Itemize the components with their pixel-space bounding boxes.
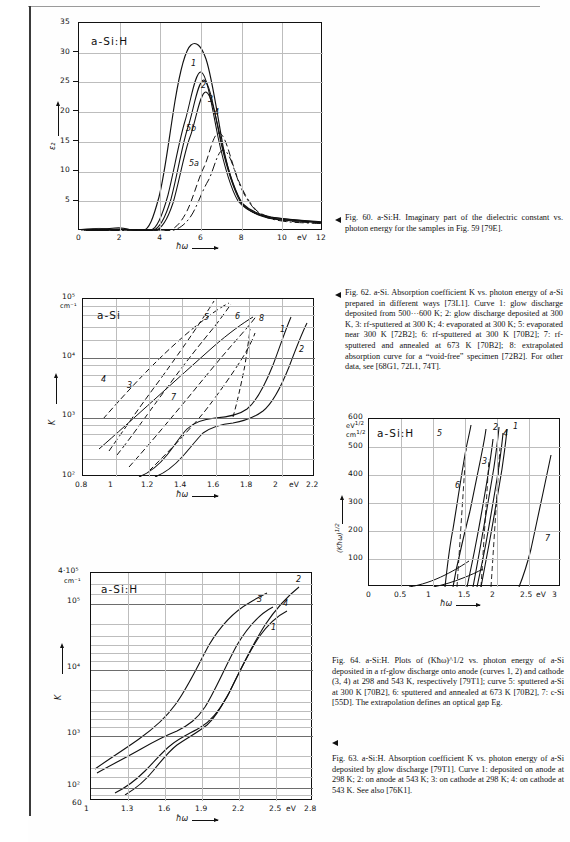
document-page: 1 2 3 4 5b 5a a-Si:H 35 30 25 20 15 10 5… <box>0 0 570 842</box>
figure-64-curve-label-5: 5 <box>437 429 442 438</box>
scan-margin <box>0 0 28 842</box>
figure-60-ytick-30: 30 <box>60 47 70 56</box>
figure-64-xtick-2.0: 2 <box>490 590 495 599</box>
figure-63-caption: Fig. 63. a-Si:H. Absorption coefficient … <box>332 754 564 796</box>
figure-60-x-axis-label: ħω <box>176 242 188 251</box>
figure-60-xtick-2: 2 <box>117 233 122 242</box>
figure-60-y-arrow <box>58 106 59 136</box>
figure-64-xtick-1.0: 1 <box>426 590 431 599</box>
figure-64-curve-label-2: 2 <box>493 423 498 432</box>
page-top-rule <box>28 6 540 7</box>
figure-63-ytick-1e4: 10⁴ <box>67 662 80 671</box>
figure-60-ytick-5: 5 <box>65 195 70 204</box>
figure-60-xtick-4: 4 <box>157 233 162 242</box>
figure-64-curve-label-7: 7 <box>545 534 550 543</box>
figure-64: 5 2 1 4 3 6 7 a-Si:H 600 eV1/2 cm1/2 500… <box>330 408 570 648</box>
figure-62-plot-area: 5 6 8 1 2 4 3 7 a-Si <box>82 298 314 476</box>
figure-62-curve-label-8: 8 <box>259 314 264 323</box>
figure-64-ytick-100: 100 <box>348 553 363 562</box>
figure-60-xtick-0: 0 <box>76 233 81 242</box>
figure-63-x-axis-label: ħω <box>176 814 188 823</box>
figure-60-curve-label-4: 4 <box>214 108 219 117</box>
figure-60-xtick-8: 8 <box>239 233 244 242</box>
figure-62-xtick-1.4: 1.4 <box>174 480 187 489</box>
figure-62-xtick-1.6: 1.6 <box>207 480 220 489</box>
figure-64-ytick-400: 400 <box>348 469 363 478</box>
figure-64-xtick-0: 0 <box>366 590 371 599</box>
figure-62-xtick-0.8: 0.8 <box>75 480 88 489</box>
figure-63-xtick-1.9: 1.9 <box>195 804 208 813</box>
figure-62-x-unit: eV <box>289 480 299 489</box>
figure-62-xtick-2.0: 2 <box>273 480 278 489</box>
figure-62-x-axis-label: ħω <box>176 490 188 499</box>
caption-pointer-icon-63 <box>332 740 338 746</box>
figure-60-ytick-25: 25 <box>60 76 70 85</box>
figure-62: 5 6 8 1 2 4 3 7 a-Si 10⁵ cm⁻¹ 10⁴ 10³ 10… <box>36 290 330 510</box>
figure-63-y-unit: cm⁻¹ <box>64 577 81 585</box>
figure-64-x-arrow <box>456 605 480 606</box>
figure-60-xtick-6: 6 <box>198 233 203 242</box>
caption-pointer-icon-62 <box>335 292 341 298</box>
figure-62-ytick-1e2: 10² <box>62 470 75 479</box>
figure-60-caption: Fig. 60. a-Si:H. Imaginary part of the d… <box>345 213 563 234</box>
figure-64-caption-number: Fig. 64. <box>332 656 361 665</box>
figure-62-caption-material: a-Si. <box>374 288 389 297</box>
figure-63-y-axis-label: K <box>54 695 63 700</box>
figure-63-xtick-1.6: 1.6 <box>158 804 171 813</box>
figure-64-plot-area: 5 2 1 4 3 6 7 a-Si:H <box>368 418 560 586</box>
figure-63-xtick-2.5: 2.5 <box>269 804 282 813</box>
figure-62-sample-label: a-Si <box>97 309 121 321</box>
figure-60-caption-number: Fig. 60. <box>345 213 373 222</box>
figure-63-y-arrow <box>62 648 63 674</box>
figure-63-ytick-1e5: 10⁵ <box>67 596 80 605</box>
figure-62-xtick-1.0: 1 <box>108 480 113 489</box>
figure-63-x-unit: eV <box>286 804 296 813</box>
figure-60-y-axis-label: ε₂ <box>48 142 57 150</box>
figure-62-curve-label-6: 6 <box>235 312 240 321</box>
figure-60-x-arrow <box>192 248 218 249</box>
figure-64-caption-material: a-Si:H. <box>366 656 390 665</box>
figure-63-curve-label-4: 4 <box>283 599 288 608</box>
figure-64-x-unit: eV <box>536 590 546 599</box>
figure-60-curve-label-5a: 5a <box>189 159 199 168</box>
figure-63: 2 3 4 1 a-Si:H 4·10⁵ cm⁻¹ 10⁵ 10⁴ 10³ 10… <box>36 560 330 830</box>
figure-62-caption-text: Absorption coefficient K vs. photon ener… <box>345 288 563 371</box>
figure-60-curve-label-3: 3 <box>208 95 213 104</box>
caption-pointer-icon <box>335 217 341 223</box>
figure-63-plot-area: 2 3 4 1 a-Si:H <box>90 572 312 800</box>
figure-60-xtick-12: 12 <box>316 233 326 242</box>
figure-62-ytick-1e3: 10³ <box>62 410 75 419</box>
figure-60-ytick-35: 35 <box>60 17 70 26</box>
figure-63-caption-material: a-Si:H. <box>362 754 386 763</box>
figure-63-ytick-max: 4·10⁵ <box>58 566 79 575</box>
figure-62-curve-label-3: 3 <box>127 381 132 390</box>
figure-63-ytick-min: 60 <box>72 798 82 807</box>
figure-60: 1 2 3 4 5b 5a a-Si:H 35 30 25 20 15 10 5… <box>36 10 330 250</box>
figure-62-caption-number: Fig. 62. <box>345 288 371 297</box>
figure-62-xtick-2.2: 2.2 <box>306 480 319 489</box>
figure-62-ytick-1e4: 10⁴ <box>62 351 75 360</box>
figure-64-ytick-500: 500 <box>348 441 363 450</box>
figure-62-xtick-1.8: 1.8 <box>240 480 253 489</box>
figure-60-ytick-15: 15 <box>60 136 70 145</box>
page-left-rule <box>29 6 31 816</box>
figure-64-ytick-300: 300 <box>348 497 363 506</box>
figure-62-curve-label-4: 4 <box>101 375 106 384</box>
figure-62-curve-label-2: 2 <box>299 345 304 354</box>
figure-64-curve-label-1: 1 <box>513 422 518 431</box>
figure-64-xtick-0.5: 0.5 <box>394 590 407 599</box>
figure-64-y-unit-cm: cm1/2 <box>346 429 366 439</box>
figure-63-xtick-2.2: 2.2 <box>232 804 245 813</box>
figure-64-y-arrow <box>342 500 343 524</box>
figure-60-x-unit: eV <box>297 233 307 242</box>
figure-64-xtick-2.5: 2.5 <box>520 590 533 599</box>
figure-63-curve-label-1: 1 <box>271 623 276 632</box>
figure-60-curve-label-5b: 5b <box>186 124 196 133</box>
figure-62-curve-label-5: 5 <box>204 313 209 322</box>
figure-63-curve-label-2: 2 <box>296 575 301 584</box>
figure-60-sample-label: a-Si:H <box>91 35 128 47</box>
figure-64-curve-label-3: 3 <box>482 457 487 466</box>
figure-64-y-axis-label: (Kħω)1/2 <box>334 523 344 553</box>
figure-64-sample-label: a-Si:H <box>377 427 414 439</box>
figure-63-xtick-2.8: 2.8 <box>304 804 317 813</box>
